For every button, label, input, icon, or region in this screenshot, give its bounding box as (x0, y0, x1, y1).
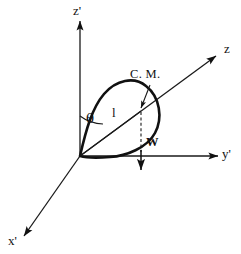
weight-label: W (146, 136, 159, 149)
axis-label-y-prime: y' (222, 147, 231, 160)
axis-label-z-prime: z' (73, 4, 81, 17)
center-of-mass-label: C. M. (130, 68, 160, 81)
physics-diagram-figure: z' y' x' z θ l C. M. W (0, 0, 241, 254)
cm-leader-arrow (141, 85, 150, 108)
diagram-canvas (0, 0, 241, 254)
axis-label-z: z (224, 42, 230, 55)
length-label: l (112, 106, 116, 119)
angle-theta-label: θ (86, 112, 94, 126)
axis-label-x-prime: x' (8, 234, 17, 247)
axis-x-prime (24, 156, 80, 236)
